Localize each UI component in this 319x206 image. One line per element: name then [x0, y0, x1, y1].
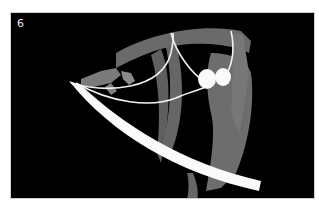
anatomy-rendering	[11, 13, 315, 199]
figure-panel: 6	[10, 12, 315, 199]
panel-label: 6	[17, 18, 24, 30]
